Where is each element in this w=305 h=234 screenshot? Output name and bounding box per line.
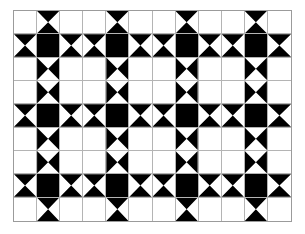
- bowtie-v-shape-icon: [106, 151, 128, 173]
- quilt-cell-white: [153, 151, 176, 174]
- bowtie-v-shape-icon: [245, 128, 267, 150]
- quilt-cell-white: [199, 198, 222, 221]
- quilt-cell-white: [14, 81, 37, 104]
- white-shape-icon: [60, 58, 82, 80]
- quilt-cell-bowtie-h: [222, 34, 245, 57]
- white-shape-icon: [222, 128, 244, 150]
- quilt-cell-white: [222, 128, 245, 151]
- quilt-cell-bowtie-v: [245, 58, 268, 81]
- quilt-cell-black: [245, 34, 268, 57]
- white-shape-icon: [199, 81, 221, 103]
- bowtie-h-shape-icon: [14, 104, 36, 126]
- quilt-cell-bowtie-v: [37, 58, 60, 81]
- black-shape-icon: [245, 34, 267, 56]
- bowtie-h-shape-icon: [129, 104, 151, 126]
- white-shape-icon: [83, 58, 105, 80]
- quilt-cell-bowtie-h: [83, 34, 106, 57]
- quilt-cell-white: [129, 58, 152, 81]
- bowtie-h-shape-icon: [222, 34, 244, 56]
- quilt-cell-white: [153, 11, 176, 34]
- white-shape-icon: [129, 11, 151, 33]
- bowtie-v-shape-icon: [106, 58, 128, 80]
- bowtie-h-shape-icon: [129, 34, 151, 56]
- quilt-cell-bowtie-v: [37, 81, 60, 104]
- white-shape-icon: [129, 198, 151, 221]
- white-shape-icon: [83, 198, 105, 221]
- quilt-cell-bowtie-h: [60, 174, 83, 197]
- quilt-cell-bowtie-v: [106, 58, 129, 81]
- quilt-cell-bowtie-h: [176, 11, 199, 34]
- quilt-cell-white: [60, 11, 83, 34]
- quilt-cell-black: [37, 174, 60, 197]
- bowtie-h-shape-icon: [37, 11, 59, 33]
- white-shape-icon: [60, 198, 82, 221]
- bowtie-h-shape-icon: [60, 34, 82, 56]
- quilt-cell-bowtie-h: [14, 34, 37, 57]
- quilt-cell-black: [37, 34, 60, 57]
- quilt-cell-bowtie-h: [268, 104, 291, 127]
- quilt-cell-bowtie-h: [129, 174, 152, 197]
- quilt-cell-bowtie-v: [176, 58, 199, 81]
- bowtie-h-shape-icon: [129, 174, 151, 196]
- quilt-cell-white: [60, 58, 83, 81]
- white-shape-icon: [153, 81, 175, 103]
- bowtie-v-shape-icon: [176, 151, 198, 173]
- black-shape-icon: [106, 104, 128, 126]
- quilt-cell-bowtie-v: [176, 81, 199, 104]
- quilt-cell-bowtie-h: [199, 174, 222, 197]
- bowtie-h-shape-icon: [14, 174, 36, 196]
- white-shape-icon: [83, 81, 105, 103]
- quilt-cell-black: [176, 34, 199, 57]
- quilt-cell-bowtie-v: [37, 128, 60, 151]
- quilt-cell-bowtie-h: [199, 34, 222, 57]
- bowtie-v-shape-icon: [176, 81, 198, 103]
- quilt-cell-bowtie-h: [37, 198, 60, 221]
- white-shape-icon: [153, 58, 175, 80]
- quilt-cell-bowtie-v: [106, 81, 129, 104]
- white-shape-icon: [153, 128, 175, 150]
- quilt-cell-white: [83, 198, 106, 221]
- quilt-cell-bowtie-v: [37, 151, 60, 174]
- quilt-cell-white: [129, 151, 152, 174]
- white-shape-icon: [60, 151, 82, 173]
- bowtie-v-shape-icon: [37, 128, 59, 150]
- bowtie-h-shape-icon: [245, 198, 267, 221]
- quilt-cell-white: [60, 128, 83, 151]
- quilt-cell-white: [83, 11, 106, 34]
- quilt-cell-white: [83, 151, 106, 174]
- white-shape-icon: [129, 81, 151, 103]
- quilt-cell-bowtie-h: [129, 104, 152, 127]
- bowtie-v-shape-icon: [245, 81, 267, 103]
- bowtie-h-shape-icon: [153, 104, 175, 126]
- white-shape-icon: [268, 11, 291, 33]
- bowtie-h-shape-icon: [60, 104, 82, 126]
- bowtie-h-shape-icon: [106, 198, 128, 221]
- bowtie-h-shape-icon: [14, 34, 36, 56]
- bowtie-h-shape-icon: [83, 174, 105, 196]
- quilt-cell-bowtie-h: [83, 174, 106, 197]
- bowtie-h-shape-icon: [199, 104, 221, 126]
- quilt-cell-white: [153, 128, 176, 151]
- bowtie-h-shape-icon: [222, 104, 244, 126]
- white-shape-icon: [129, 58, 151, 80]
- quilt-cell-white: [222, 151, 245, 174]
- bowtie-h-shape-icon: [268, 174, 291, 196]
- quilt-cell-black: [245, 174, 268, 197]
- white-shape-icon: [60, 11, 82, 33]
- white-shape-icon: [222, 151, 244, 173]
- quilt-cell-white: [129, 81, 152, 104]
- white-shape-icon: [268, 128, 291, 150]
- quilt-cell-white: [14, 128, 37, 151]
- white-shape-icon: [129, 151, 151, 173]
- bowtie-h-shape-icon: [245, 11, 267, 33]
- quilt-cell-white: [268, 151, 291, 174]
- quilt-cell-bowtie-h: [199, 104, 222, 127]
- bowtie-h-shape-icon: [176, 198, 198, 221]
- black-shape-icon: [37, 34, 59, 56]
- quilt-cell-white: [268, 198, 291, 221]
- quilt-cell-bowtie-h: [153, 34, 176, 57]
- bowtie-h-shape-icon: [153, 34, 175, 56]
- black-shape-icon: [106, 34, 128, 56]
- white-shape-icon: [268, 198, 291, 221]
- quilt-cell-white: [14, 11, 37, 34]
